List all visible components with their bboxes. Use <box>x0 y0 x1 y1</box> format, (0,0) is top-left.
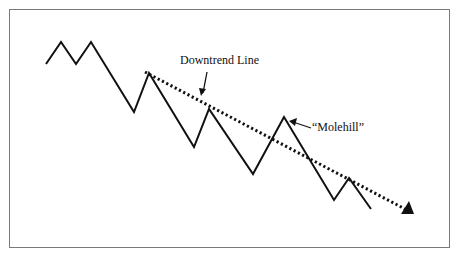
molehill-label: “Molehill” <box>312 120 364 134</box>
downtrend-pointer-head-icon <box>199 88 206 96</box>
downtrend-label: Downtrend Line <box>180 53 259 67</box>
downtrend-line <box>145 72 405 209</box>
trend-arrowhead-icon <box>401 201 414 214</box>
diagram-canvas: Downtrend Line “Molehill” <box>0 0 457 258</box>
downtrend-diagram: Downtrend Line “Molehill” <box>0 0 457 258</box>
molehill-pointer-head-icon <box>289 118 297 126</box>
